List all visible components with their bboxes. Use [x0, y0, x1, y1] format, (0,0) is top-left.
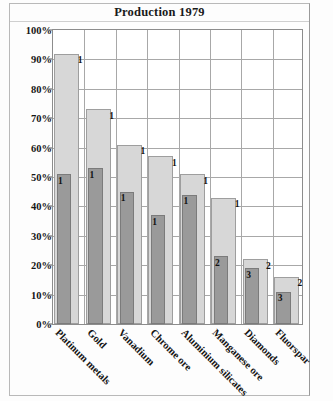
y-axis-tick-label: 30%	[6, 230, 52, 241]
bar-dark	[120, 192, 134, 324]
plot-area: 1111111111122323	[52, 29, 303, 325]
y-axis-tick-label: 80%	[6, 83, 52, 94]
title-divider	[10, 21, 309, 22]
bar-value-label: 2	[215, 259, 220, 269]
bar-column: 23	[273, 30, 304, 324]
y-axis-tick-label: 60%	[6, 142, 52, 153]
y-axis-tick-label: 90%	[6, 54, 52, 65]
bar-column: 11	[116, 30, 147, 324]
bar-column: 11	[179, 30, 210, 324]
y-axis-tick-label: 100%	[6, 25, 52, 36]
chart-image: Production 1979 100%90%80%70%60%50%40%30…	[0, 0, 333, 401]
bar-column: 11	[53, 30, 84, 324]
plot-wrap: 1111111111122323	[52, 29, 303, 325]
bar-dark	[182, 195, 196, 324]
bar-value-label: 1	[78, 56, 83, 66]
bar-value-label: 1	[89, 171, 94, 181]
y-axis-tick-label: 0%	[6, 319, 52, 330]
bar-value-label: 1	[172, 159, 177, 169]
bar-dark	[151, 215, 165, 324]
bar-value-label: 3	[278, 294, 283, 304]
y-axis-tick-label: 40%	[6, 201, 52, 212]
bar-value-label: 1	[109, 112, 114, 122]
x-axis-tick-label: Platinum metals	[54, 327, 114, 387]
bar-value-label: 1	[58, 177, 63, 187]
bar-value-label: 2	[266, 262, 271, 272]
bar-column: 11	[84, 30, 115, 324]
y-axis-tick-label: 10%	[6, 289, 52, 300]
y-axis-tick-label: 20%	[6, 260, 52, 271]
bar-value-label: 1	[184, 197, 189, 207]
bar-column: 12	[210, 30, 241, 324]
bar-column: 23	[241, 30, 272, 324]
bar-value-label: 1	[121, 194, 126, 204]
y-axis-tick-label: 50%	[6, 172, 52, 183]
bar-value-label: 2	[297, 279, 302, 289]
y-axis: 100%90%80%70%60%50%40%30%20%10%0%	[0, 29, 52, 325]
bar-dark	[88, 168, 102, 324]
bar-value-label: 1	[203, 177, 208, 187]
bar-value-label: 1	[235, 200, 240, 210]
bar-column: 11	[147, 30, 178, 324]
bar-value-label: 1	[141, 147, 146, 157]
x-axis-tick-label: Gold	[85, 327, 108, 350]
bar-value-label: 3	[246, 271, 251, 281]
chart-title: Production 1979	[9, 5, 310, 20]
y-axis-tick-label: 70%	[6, 113, 52, 124]
bar-value-label: 1	[152, 218, 157, 228]
x-axis-labels: Platinum metalsGoldVanadiumChrome oreAlu…	[52, 327, 303, 401]
bar-dark	[57, 174, 71, 324]
